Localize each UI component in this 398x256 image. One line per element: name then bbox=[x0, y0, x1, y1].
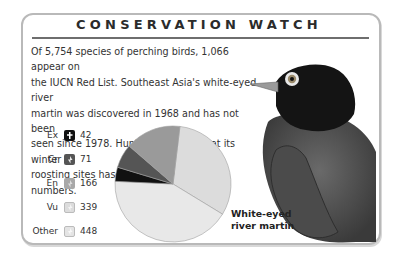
caption-line: White-eyed bbox=[231, 208, 294, 220]
legend-value: 166 bbox=[80, 178, 97, 188]
legend-label: Vu bbox=[14, 202, 58, 212]
legend-item-cr: Cr 71 bbox=[14, 154, 114, 168]
legend-item-other: Other 448 bbox=[14, 226, 114, 240]
legend-value: 42 bbox=[80, 130, 91, 140]
legend-value: 448 bbox=[80, 226, 97, 236]
legend-item-ex: Ex 42 bbox=[14, 130, 114, 144]
legend-item-en: En 166 bbox=[14, 178, 114, 192]
legend-item-vu: Vu 339 bbox=[14, 202, 114, 216]
legend-value: 339 bbox=[80, 202, 97, 212]
other-icon bbox=[64, 226, 75, 237]
endangered-icon bbox=[64, 178, 75, 189]
legend-label: En bbox=[14, 178, 58, 188]
legend-label: Ex bbox=[14, 130, 58, 140]
extinct-icon bbox=[64, 130, 75, 141]
pie-chart bbox=[114, 125, 232, 243]
panel-title: CONSERVATION WATCH bbox=[0, 17, 398, 32]
legend-value: 71 bbox=[80, 154, 91, 164]
legend-label: Other bbox=[14, 226, 58, 236]
caption-line: river martin bbox=[231, 220, 294, 232]
bird-caption: White-eyed river martin bbox=[231, 208, 294, 231]
body-line: Of 5,754 species of perching birds, 1,06… bbox=[31, 44, 257, 75]
vulnerable-icon bbox=[64, 202, 75, 213]
title-divider bbox=[32, 37, 369, 39]
critical-icon bbox=[64, 154, 75, 165]
body-line: the IUCN Red List. Southeast Asia's whit… bbox=[31, 75, 257, 106]
legend-label: Cr bbox=[14, 154, 58, 164]
